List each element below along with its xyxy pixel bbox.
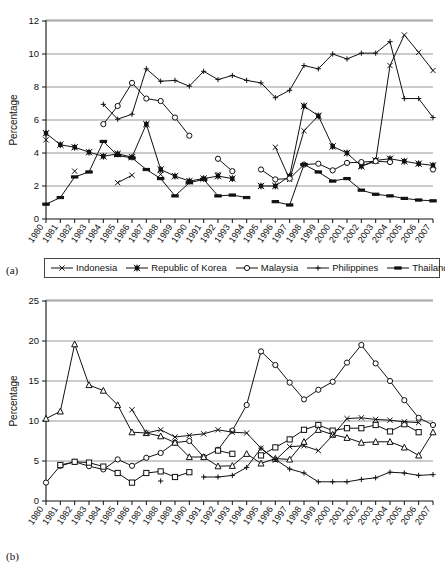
legend-item-thailand[interactable]: Thailand: [387, 263, 445, 273]
figure-a: 024681012Percentage198019811982198319841…: [0, 0, 445, 288]
legend-label: Philippines: [332, 263, 378, 273]
legend-marker-plus-icon: [307, 263, 329, 273]
y-tick-label: 10: [28, 415, 39, 426]
legend-label: Malaysia: [261, 263, 299, 273]
series-chile: [43, 341, 436, 469]
panel-label-b: (b): [6, 550, 19, 562]
legend-marker-star-icon: [126, 263, 148, 273]
y-tick-label: 8: [34, 81, 39, 92]
legend-a: IndonesiaRepublic of KoreaMalaysiaPhilip…: [44, 258, 440, 278]
y-axis-title: Percentage: [8, 94, 19, 146]
chart-a-plot: 024681012Percentage198019811982198319841…: [0, 0, 445, 255]
legend-label: Republic of Korea: [151, 263, 227, 273]
legend-item-republic-of-korea[interactable]: Republic of Korea: [126, 263, 227, 273]
panel-label-a: (a): [6, 264, 18, 276]
legend-marker-dash-icon: [387, 263, 409, 273]
chart-b-plot: 0510152025Percentage19801981198219831984…: [0, 288, 445, 538]
y-tick-label: 0: [34, 213, 39, 224]
y-tick-label: 5: [34, 455, 39, 466]
legend-label: Thailand: [412, 263, 445, 273]
legend-item-philippines[interactable]: Philippines: [307, 263, 378, 273]
legend-marker-circle-icon: [236, 263, 258, 273]
series-mexico: [158, 446, 436, 485]
x-tick-label: 2007: [413, 504, 433, 526]
y-tick-label: 15: [28, 375, 39, 386]
y-tick-label: 10: [28, 48, 39, 59]
series-brazil: [58, 422, 422, 486]
y-axis-title: Percentage: [8, 375, 19, 427]
y-tick-label: 6: [34, 114, 39, 125]
series-philippines: [101, 39, 436, 122]
y-tick-label: 12: [28, 15, 39, 26]
legend-marker-x-icon: [51, 263, 73, 273]
legend-item-malaysia[interactable]: Malaysia: [236, 263, 299, 273]
y-tick-label: 4: [34, 147, 39, 158]
y-tick-label: 2: [34, 180, 39, 191]
y-tick-label: 20: [28, 335, 39, 346]
figure-b: 0510152025Percentage19801981198219831984…: [0, 288, 445, 576]
x-tick-label: 2007: [413, 222, 433, 244]
legend-item-indonesia[interactable]: Indonesia: [51, 263, 117, 273]
y-tick-label: 25: [28, 295, 39, 306]
legend-label: Indonesia: [76, 263, 117, 273]
y-tick-label: 0: [34, 495, 39, 506]
series-republic-of-korea: [43, 103, 436, 190]
